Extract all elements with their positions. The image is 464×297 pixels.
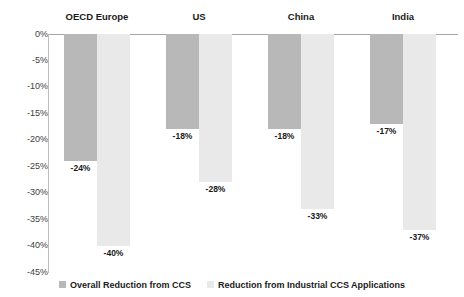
bar-group: OECD Europe-24%-40% <box>48 34 150 272</box>
bar-group: China-18%-33% <box>252 34 354 272</box>
y-axis-tick-label: -15% <box>4 109 48 118</box>
bar-group: India-17%-37% <box>354 34 456 272</box>
category-label: China <box>268 11 334 22</box>
bar-group: US-18%-28% <box>150 34 252 272</box>
plot-area: OECD Europe-24%-40%US-18%-28%China-18%-3… <box>48 34 456 272</box>
legend-label: Reduction from Industrial CCS Applicatio… <box>218 280 405 290</box>
bar <box>403 34 436 230</box>
legend-item[interactable]: Overall Reduction from CCS <box>59 280 191 290</box>
bar-value-label: -33% <box>295 211 340 221</box>
legend-swatch-icon <box>59 281 66 288</box>
category-label: OECD Europe <box>64 11 130 22</box>
category-label: US <box>166 11 232 22</box>
y-axis-tick-label: 0% <box>4 30 48 39</box>
y-axis-tick-label: -20% <box>4 135 48 144</box>
y-axis-tick-label: -5% <box>4 56 48 65</box>
y-axis: 0%-5%-10%-15%-20%-25%-30%-35%-40%-45% <box>0 0 48 297</box>
bar <box>64 34 97 161</box>
y-axis-tick-label: -10% <box>4 82 48 91</box>
bar <box>199 34 232 182</box>
legend-label: Overall Reduction from CCS <box>70 280 191 290</box>
legend-swatch-icon <box>207 281 214 288</box>
bar <box>301 34 334 209</box>
bar-value-label: -28% <box>193 184 238 194</box>
bar <box>268 34 301 129</box>
bar <box>166 34 199 129</box>
bar <box>97 34 130 246</box>
bar-value-label: -40% <box>91 248 136 258</box>
bar-chart: 0%-5%-10%-15%-20%-25%-30%-35%-40%-45% OE… <box>0 0 464 297</box>
category-label: India <box>370 11 436 22</box>
chart-legend: Overall Reduction from CCSReduction from… <box>0 272 464 297</box>
y-axis-tick-label: -30% <box>4 188 48 197</box>
bar-value-label: -37% <box>397 232 442 242</box>
y-axis-tick-label: -40% <box>4 241 48 250</box>
y-axis-tick-label: -25% <box>4 162 48 171</box>
legend-item[interactable]: Reduction from Industrial CCS Applicatio… <box>207 280 405 290</box>
y-axis-tick-label: -35% <box>4 215 48 224</box>
bar <box>370 34 403 124</box>
